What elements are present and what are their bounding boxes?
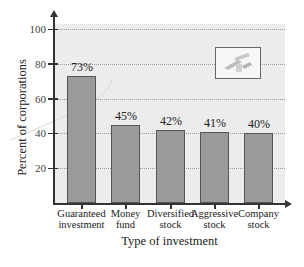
category-label-line: stock (228, 219, 290, 230)
category-label: Companystock (228, 208, 290, 230)
bar (200, 132, 229, 203)
bar-value-label: 41% (193, 117, 237, 130)
bar-value-label: 45% (104, 110, 148, 123)
y-tick-label: 100 (22, 23, 46, 35)
bar-value-label: 73% (60, 61, 104, 74)
y-axis (53, 14, 55, 204)
category-label-line: Company (228, 208, 290, 219)
gridline (54, 29, 285, 30)
bar-value-label: 42% (149, 115, 193, 128)
bar (67, 76, 96, 203)
bar (244, 133, 273, 203)
bar (111, 125, 140, 203)
y-axis-arrow-icon (50, 10, 58, 17)
y-axis-title: Percent of corporations (15, 58, 30, 178)
x-axis-title: Type of investment (54, 234, 285, 249)
bar-value-label: 40% (237, 118, 281, 131)
money-stack-icon (215, 47, 261, 79)
bar (156, 130, 185, 203)
x-axis-arrow-icon (285, 200, 292, 208)
